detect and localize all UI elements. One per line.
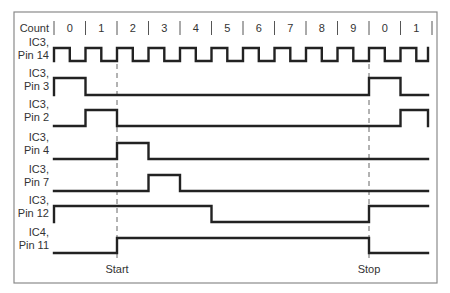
waveforms <box>54 48 428 253</box>
timing-diagram: Count 012345678901 Start Stop IC3, Pin 1… <box>0 0 450 293</box>
count-label: 6 <box>256 22 262 34</box>
count-label: 3 <box>161 22 167 34</box>
signal-label-line2: Pin 2 <box>24 111 49 123</box>
count-label: 4 <box>193 22 199 34</box>
count-label: 8 <box>319 22 325 34</box>
count-header-label: Count <box>20 22 49 34</box>
signal-label-line1: IC3, <box>29 36 49 48</box>
count-label: 7 <box>287 22 293 34</box>
signal-label-ic4-pin11: IC4, Pin 11 <box>19 226 49 251</box>
waveform-ic3-pin4 <box>54 143 428 159</box>
waveform-ic3-pin2 <box>54 110 428 126</box>
start-marker-label: Start <box>105 263 128 275</box>
signal-label-line1: IC3, <box>29 67 49 79</box>
signal-label-line2: Pin 7 <box>24 176 49 188</box>
signal-label-ic3-pin14: IC3, Pin 14 <box>18 36 49 61</box>
waveform-ic3-pin7 <box>54 175 428 191</box>
count-label: 1 <box>413 22 419 34</box>
count-label: 0 <box>382 22 388 34</box>
signal-label-line1: IC3, <box>29 194 49 206</box>
count-label: 0 <box>67 22 73 34</box>
signal-label-line2: Pin 3 <box>24 80 49 92</box>
signal-label-line2: Pin 12 <box>18 207 49 219</box>
stop-marker-label: Stop <box>358 263 381 275</box>
signal-label-line1: IC3, <box>29 163 49 175</box>
waveform-ic3-pin3 <box>54 78 428 95</box>
count-row: 012345678901 <box>54 21 432 35</box>
diagram-frame <box>14 12 437 283</box>
count-label: 2 <box>130 22 136 34</box>
count-label: 5 <box>224 22 230 34</box>
signal-label-line1: IC4, <box>29 226 49 238</box>
signal-label-ic3-pin4: IC3, Pin 4 <box>24 131 49 156</box>
signal-label-ic3-pin7: IC3, Pin 7 <box>24 163 49 188</box>
signal-label-line1: IC3, <box>29 98 49 110</box>
signal-label-line2: Pin 4 <box>24 144 49 156</box>
waveform-ic3-pin12 <box>54 206 428 222</box>
count-label: 9 <box>350 22 356 34</box>
signal-label-line2: Pin 14 <box>18 49 49 61</box>
signal-label-ic3-pin12: IC3, Pin 12 <box>18 194 49 219</box>
signal-label-line1: IC3, <box>29 131 49 143</box>
count-label: 1 <box>98 22 104 34</box>
signal-label-line2: Pin 11 <box>19 239 49 251</box>
signal-label-ic3-pin2: IC3, Pin 2 <box>24 98 49 123</box>
waveform-ic3-pin14 <box>54 48 428 61</box>
signal-label-ic3-pin3: IC3, Pin 3 <box>24 67 49 92</box>
waveform-ic4-pin11 <box>54 238 428 253</box>
